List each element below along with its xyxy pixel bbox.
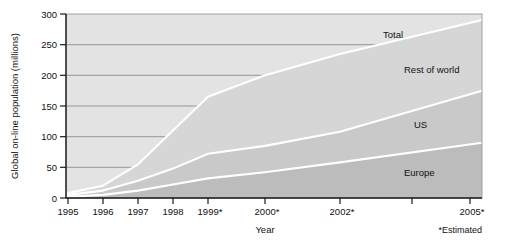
- y-tick-label-300: 300: [41, 9, 57, 20]
- estimated-note: *Estimated: [438, 225, 482, 235]
- y-axis-title: Global on-line population (millions): [9, 33, 20, 179]
- y-tick-label-200: 200: [41, 70, 57, 81]
- y-tick-label-250: 250: [41, 39, 57, 50]
- x-tick-label-2000: 2000*: [255, 206, 280, 217]
- y-tick-label-150: 150: [41, 101, 57, 112]
- x-tick-label-1997: 1997: [127, 206, 148, 217]
- chart-container: 300 250 200 150 100 50 0: [0, 0, 506, 250]
- x-tick-label-2002: 2002*: [330, 206, 355, 217]
- y-tick-label-0: 0: [52, 193, 57, 204]
- x-tick-label-1996: 1996: [92, 206, 113, 217]
- x-tick-label-1995: 1995: [57, 206, 78, 217]
- series-label-rest-of-world: Rest of world: [404, 64, 459, 75]
- x-axis-title: Year: [255, 224, 274, 235]
- series-label-total: Total: [383, 29, 403, 40]
- y-tick-label-100: 100: [41, 131, 57, 142]
- series-label-us: US: [414, 119, 427, 130]
- x-tick-label-1998: 1998: [162, 206, 183, 217]
- y-tick-label-50: 50: [46, 162, 57, 173]
- series-label-europe: Europe: [404, 167, 435, 178]
- chart-canvas: 300 250 200 150 100 50 0: [0, 0, 506, 250]
- x-tick-label-2005: 2005*: [460, 206, 485, 217]
- x-tick-label-1999: 1999*: [198, 206, 223, 217]
